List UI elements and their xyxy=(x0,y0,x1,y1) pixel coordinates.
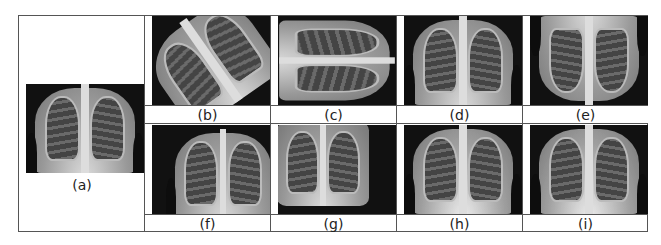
xray-image-e xyxy=(530,16,648,105)
panel-label-b: (b) xyxy=(145,105,270,124)
xray-image-i xyxy=(530,125,648,214)
panel-i: (i) xyxy=(522,124,648,231)
panel-label-e: (e) xyxy=(523,105,648,124)
xray-image-a xyxy=(26,84,144,173)
panel-label-g: (g) xyxy=(271,214,396,232)
panel-f: (f) xyxy=(144,124,270,231)
panel-a: (a) xyxy=(19,16,145,231)
panel-label-i: (i) xyxy=(523,214,648,232)
xray-image-c xyxy=(278,16,396,105)
augmentation-figure: (a) (b) (c) (d) (e) (f) (g) xyxy=(18,15,648,232)
xray-image-g xyxy=(278,125,396,214)
panel-c: (c) xyxy=(270,16,396,124)
panel-label-a: (a) xyxy=(19,176,145,194)
xray-image-d xyxy=(404,16,522,105)
panel-label-f: (f) xyxy=(145,214,270,232)
panel-label-h: (h) xyxy=(397,214,522,232)
panel-e: (e) xyxy=(522,16,648,124)
xray-image-h xyxy=(404,125,522,214)
xray-image-b xyxy=(152,16,270,105)
panel-g: (g) xyxy=(270,124,396,231)
panel-label-c: (c) xyxy=(271,105,396,124)
panel-h: (h) xyxy=(396,124,522,231)
panel-b: (b) xyxy=(144,16,270,124)
panel-d: (d) xyxy=(396,16,522,124)
xray-image-f xyxy=(152,125,270,214)
panel-label-d: (d) xyxy=(397,105,522,124)
